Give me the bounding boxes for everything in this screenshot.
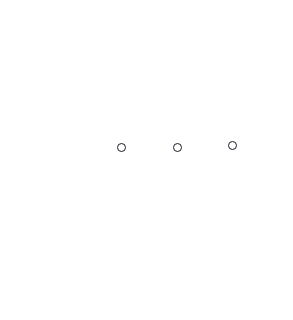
scatter-marker [117,143,126,152]
figure-canvas [0,0,293,320]
scatter-marker [228,141,237,150]
scatter-marker [173,143,182,152]
plot-area [0,0,293,320]
